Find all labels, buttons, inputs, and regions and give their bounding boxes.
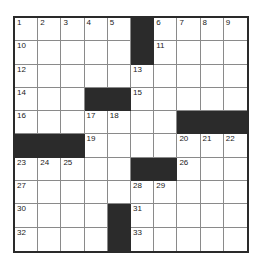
- grid-cell[interactable]: [177, 41, 200, 64]
- grid-cell[interactable]: [154, 111, 177, 134]
- grid-cell[interactable]: [61, 181, 84, 204]
- grid-cell[interactable]: [38, 204, 61, 227]
- grid-cell[interactable]: 23: [15, 158, 38, 181]
- grid-cell[interactable]: 9: [224, 18, 247, 41]
- grid-cell[interactable]: [61, 204, 84, 227]
- grid-cell[interactable]: [108, 134, 131, 157]
- grid-cell[interactable]: [154, 65, 177, 88]
- grid-cell[interactable]: [61, 111, 84, 134]
- grid-cell[interactable]: [154, 204, 177, 227]
- crossword-grid: 1234567891011121314151617181920212223242…: [13, 16, 249, 253]
- grid-cell[interactable]: [201, 88, 224, 111]
- grid-cell[interactable]: [85, 158, 108, 181]
- grid-cell[interactable]: 26: [177, 158, 200, 181]
- grid-cell[interactable]: 31: [131, 204, 154, 227]
- grid-cell[interactable]: [131, 111, 154, 134]
- grid-cell[interactable]: [201, 65, 224, 88]
- grid-cell[interactable]: 6: [154, 18, 177, 41]
- clue-number: 8: [203, 19, 207, 27]
- grid-cell[interactable]: 12: [15, 65, 38, 88]
- grid-cell[interactable]: [38, 111, 61, 134]
- grid-cell[interactable]: [85, 204, 108, 227]
- grid-cell[interactable]: 17: [85, 111, 108, 134]
- grid-cell[interactable]: [201, 41, 224, 64]
- clue-number: 22: [226, 135, 235, 143]
- grid-cell[interactable]: [177, 88, 200, 111]
- grid-cell[interactable]: [85, 65, 108, 88]
- grid-cell[interactable]: 18: [108, 111, 131, 134]
- grid-cell[interactable]: 2: [38, 18, 61, 41]
- grid-cell[interactable]: [61, 228, 84, 251]
- grid-cell[interactable]: [85, 41, 108, 64]
- grid-cell[interactable]: 33: [131, 228, 154, 251]
- grid-cell[interactable]: [177, 228, 200, 251]
- clue-number: 14: [17, 89, 26, 97]
- grid-cell[interactable]: 8: [201, 18, 224, 41]
- grid-cell[interactable]: 4: [85, 18, 108, 41]
- grid-cell[interactable]: [108, 41, 131, 64]
- grid-cell[interactable]: [201, 228, 224, 251]
- grid-cell[interactable]: [108, 158, 131, 181]
- black-square: [61, 134, 84, 157]
- grid-cell[interactable]: [224, 41, 247, 64]
- grid-cell[interactable]: [38, 41, 61, 64]
- grid-cell[interactable]: [224, 88, 247, 111]
- grid-cell[interactable]: 20: [177, 134, 200, 157]
- grid-cell[interactable]: [85, 228, 108, 251]
- grid-cell[interactable]: 22: [224, 134, 247, 157]
- grid-cell[interactable]: [108, 181, 131, 204]
- grid-cell[interactable]: 5: [108, 18, 131, 41]
- grid-cell[interactable]: [154, 88, 177, 111]
- grid-cell[interactable]: [61, 88, 84, 111]
- grid-cell[interactable]: [131, 134, 154, 157]
- grid-cell[interactable]: [177, 204, 200, 227]
- grid-cell[interactable]: [177, 181, 200, 204]
- grid-cell[interactable]: 28: [131, 181, 154, 204]
- grid-cell[interactable]: [224, 181, 247, 204]
- grid-cell[interactable]: [177, 65, 200, 88]
- grid-cell[interactable]: [154, 134, 177, 157]
- grid-cell[interactable]: 30: [15, 204, 38, 227]
- grid-cell[interactable]: 15: [131, 88, 154, 111]
- grid-cell[interactable]: [61, 65, 84, 88]
- grid-cell[interactable]: 7: [177, 18, 200, 41]
- grid-cell[interactable]: 32: [15, 228, 38, 251]
- clue-number: 5: [110, 19, 114, 27]
- grid-cell[interactable]: [108, 65, 131, 88]
- clue-number: 29: [156, 182, 165, 190]
- grid-cell[interactable]: [224, 65, 247, 88]
- grid-cell[interactable]: 16: [15, 111, 38, 134]
- grid-cell[interactable]: [38, 228, 61, 251]
- grid-cell[interactable]: 11: [154, 41, 177, 64]
- grid-cell[interactable]: [224, 158, 247, 181]
- clue-number: 26: [179, 159, 188, 167]
- grid-cell[interactable]: [224, 204, 247, 227]
- grid-cell[interactable]: [201, 204, 224, 227]
- grid-cell[interactable]: 13: [131, 65, 154, 88]
- grid-cell[interactable]: 3: [61, 18, 84, 41]
- black-square: [15, 134, 38, 157]
- black-square: [154, 158, 177, 181]
- grid-cell[interactable]: 1: [15, 18, 38, 41]
- clue-number: 19: [87, 135, 96, 143]
- grid-cell[interactable]: 14: [15, 88, 38, 111]
- black-square: [201, 111, 224, 134]
- grid-cell[interactable]: 10: [15, 41, 38, 64]
- grid-cell[interactable]: 19: [85, 134, 108, 157]
- clue-number: 18: [110, 112, 119, 120]
- grid-cell[interactable]: [224, 228, 247, 251]
- grid-cell[interactable]: 25: [61, 158, 84, 181]
- grid-cell[interactable]: [61, 41, 84, 64]
- grid-cell[interactable]: [38, 65, 61, 88]
- grid-cell[interactable]: [154, 228, 177, 251]
- grid-cell[interactable]: [201, 158, 224, 181]
- grid-cell[interactable]: 27: [15, 181, 38, 204]
- grid-cell[interactable]: [38, 181, 61, 204]
- grid-cell[interactable]: 24: [38, 158, 61, 181]
- grid-cell[interactable]: 29: [154, 181, 177, 204]
- grid-cell[interactable]: 21: [201, 134, 224, 157]
- grid-cell[interactable]: [38, 88, 61, 111]
- grid-cell[interactable]: [201, 181, 224, 204]
- clue-number: 12: [17, 66, 26, 74]
- grid-cell[interactable]: [85, 181, 108, 204]
